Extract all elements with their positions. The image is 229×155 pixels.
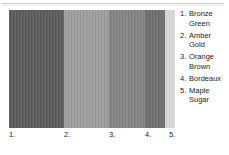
axis-label-1: 1.: [9, 130, 15, 140]
legend-item-label: Bordeaux: [189, 74, 229, 84]
swatch-band-4[interactable]: [145, 10, 165, 128]
swatch-band-group: [9, 10, 175, 128]
axis-label-2: 2.: [64, 130, 70, 140]
legend-item-5[interactable]: 5.Maple Sugar: [180, 86, 229, 105]
legend-item-4[interactable]: 4.Bordeaux: [180, 74, 229, 84]
legend-item-2[interactable]: 2.Amber Gold: [180, 31, 229, 50]
axis-label-3: 3.: [109, 130, 115, 140]
top-divider-rule: [2, 3, 224, 4]
legend-item-3[interactable]: 3.Orange Brown: [180, 52, 229, 71]
legend-item-number: 5.: [180, 86, 189, 96]
legend-item-number: 3.: [180, 52, 189, 62]
swatch-index-axis: 1.2.3.4.5.: [0, 130, 179, 144]
swatch-band-1[interactable]: [9, 10, 64, 128]
color-legend: 1.Bronze Green2.Amber Gold3.Orange Brown…: [180, 9, 229, 107]
axis-label-5: 5.: [169, 130, 175, 140]
legend-item-label: Amber Gold: [189, 31, 229, 50]
legend-item-label: Maple Sugar: [189, 86, 229, 105]
legend-item-1[interactable]: 1.Bronze Green: [180, 9, 229, 28]
legend-item-number: 1.: [180, 9, 189, 19]
swatch-band-5[interactable]: [165, 10, 175, 128]
axis-label-4: 4.: [145, 130, 151, 140]
legend-item-label: Orange Brown: [189, 52, 229, 71]
top-divider-rule-shadow: [2, 5, 224, 6]
color-swatch-chart-page: 1.2.3.4.5. 1.Bronze Green2.Amber Gold3.O…: [0, 0, 229, 155]
swatch-band-3[interactable]: [109, 10, 145, 128]
legend-item-number: 4.: [180, 74, 189, 84]
legend-item-label: Bronze Green: [189, 9, 229, 28]
legend-item-number: 2.: [180, 31, 189, 41]
swatch-band-2[interactable]: [64, 10, 109, 128]
